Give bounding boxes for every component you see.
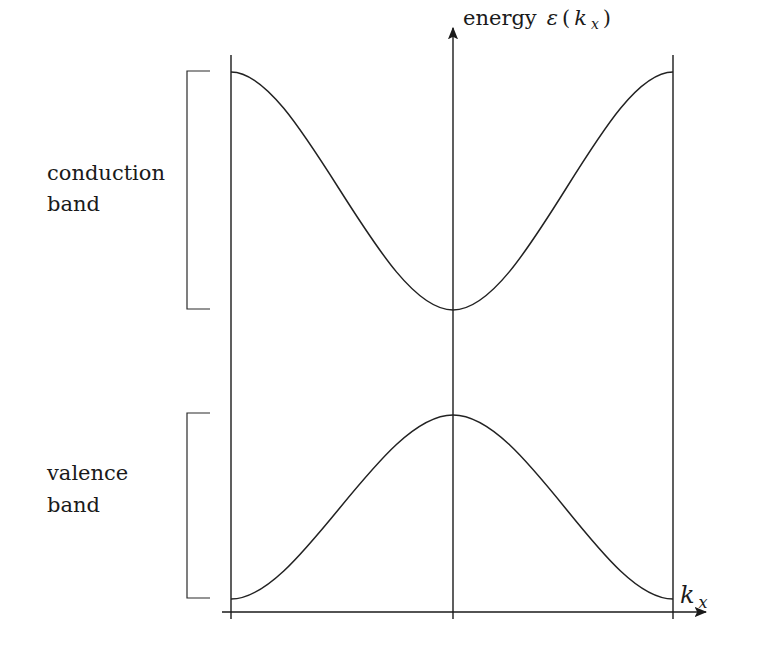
energy-word: energy — [463, 6, 537, 30]
valence-band-bracket — [187, 413, 210, 598]
energy-axis-label: energy ε ( k x ) — [463, 6, 611, 32]
conduction-band-curve — [231, 72, 673, 310]
kx-axis-label: k x — [680, 581, 708, 612]
conduction-band-bracket — [187, 71, 210, 309]
conduction-band-label-line2: band — [47, 192, 100, 216]
k-variable: k — [680, 581, 695, 609]
open-paren: ( — [562, 6, 570, 30]
close-paren: ) — [603, 6, 611, 30]
epsilon-symbol: ε — [547, 6, 558, 30]
valence-band-curve — [231, 415, 673, 599]
k-variable: k — [574, 6, 587, 30]
valence-band-label-line2: band — [47, 493, 100, 517]
x-subscript: x — [591, 16, 599, 32]
conduction-band-label-line1: conduction — [47, 161, 165, 185]
band-diagram: conduction band valence band energy ε ( … — [0, 0, 770, 648]
x-subscript: x — [699, 593, 708, 612]
valence-band-label-line1: valence — [46, 461, 128, 485]
